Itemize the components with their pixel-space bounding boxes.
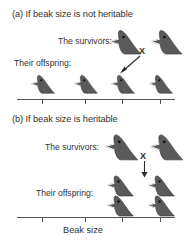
panel-b-axis-line: [17, 217, 175, 218]
panel-b-offspring-label: Their offspring:: [36, 188, 93, 198]
panel-a-axis-tick-2: [85, 99, 86, 104]
panel-a-offspring-label: Their offspring:: [14, 58, 71, 68]
panel-a-title: (a) If beak size is not heritable: [12, 9, 133, 19]
panel-b-axis-tick-4: [160, 217, 161, 222]
panel-a-offspring-bird-2: [74, 72, 99, 94]
panel-b-title: (b) If beak size is heritable: [12, 114, 118, 124]
panel-a-survivors-label: The survivors:: [58, 36, 112, 46]
panel-a-offspring-bird-1: [31, 72, 56, 94]
panel-a-offspring-bird-3: [111, 72, 136, 94]
panel-a-axis-line: [17, 99, 175, 100]
panel-b-survivors-label: The survivors:: [45, 142, 99, 152]
panel-b-axis-tick-2: [85, 217, 86, 222]
panel-b-offspring-bird-4: [148, 192, 176, 217]
panel-b-survivor-bird-2: [150, 130, 185, 161]
panel-b-axis-tick-1: [42, 217, 43, 222]
panel-b-offspring-bird-3: [107, 192, 135, 217]
panel-a-survivor-bird-2: [151, 26, 184, 55]
panel-a-offspring-bird-4: [149, 72, 174, 94]
panel-a-axis-tick-4: [160, 99, 161, 104]
panel-a-axis-tick-1: [42, 99, 43, 104]
beak-size-heritability-figure: (a) If beak size is not heritable The su…: [0, 0, 189, 242]
x-axis-label: Beak size: [63, 225, 103, 235]
panel-a-axis-tick-3: [122, 99, 123, 104]
panel-b-survivor-bird-1: [105, 130, 140, 161]
panel-b-cross-symbol: X: [140, 152, 146, 161]
panel-b-axis-tick-3: [122, 217, 123, 222]
